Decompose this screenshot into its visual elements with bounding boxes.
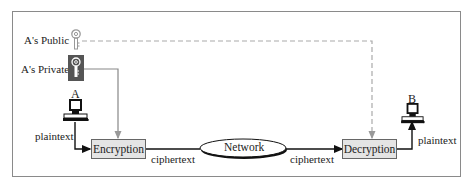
network-label: Network	[224, 142, 264, 154]
computer-icon	[63, 99, 89, 123]
private-key-label: A's Private	[21, 64, 69, 75]
dec-ciphertext-label: ciphertext	[290, 154, 334, 165]
public-key-label: A's Public	[24, 35, 69, 46]
receiver-plaintext-label: plaintext	[418, 135, 457, 146]
sender-plaintext-label: plaintext	[35, 131, 74, 142]
key-icon	[70, 29, 82, 51]
enc-ciphertext-label: ciphertext	[151, 154, 195, 165]
key-icon	[68, 55, 84, 81]
encryption-box: Encryption	[91, 139, 146, 159]
computer-icon	[400, 103, 426, 125]
decryption-box: Decryption	[342, 139, 397, 159]
